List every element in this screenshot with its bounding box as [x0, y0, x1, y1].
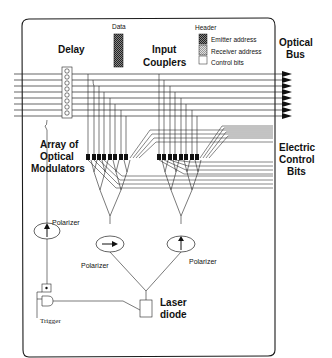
gate-link	[37, 292, 140, 318]
data-block	[114, 34, 123, 67]
legend-swatch-control	[199, 56, 207, 64]
photodetector-dot-icon	[45, 287, 47, 289]
input-couplers-label-2: Couplers	[143, 57, 187, 68]
legend-swatch-receiver	[199, 45, 207, 55]
combiner-tree-left	[91, 160, 130, 224]
polarizer-mid-label: Polarizer	[81, 262, 109, 269]
array-label-1: Array of	[40, 139, 79, 150]
input-couplers-group-1	[88, 74, 126, 157]
optical-modulator-array-2	[157, 154, 199, 160]
polarizer-mid	[96, 236, 124, 252]
laser-diode	[140, 300, 152, 317]
header-label: Header	[195, 24, 217, 31]
legend-receiver-address: Receiver address	[211, 48, 262, 55]
combiner-tree-right	[162, 160, 201, 224]
optical-modulator-array-1	[86, 154, 128, 160]
optical-bus-lines	[14, 74, 282, 116]
laser-label-2: diode	[160, 309, 187, 320]
polarizer-right-label: Polarizer	[189, 258, 217, 265]
input-couplers-group-2	[159, 74, 197, 157]
polarizer-right	[167, 236, 195, 252]
polarizer-left-label: Polarizer	[52, 219, 80, 226]
electric-label-1: Electric	[279, 142, 316, 153]
legend-control-bits: Control bits	[211, 59, 245, 66]
bus-arrow-icons	[282, 71, 292, 119]
input-couplers-label-1: Input	[152, 44, 177, 55]
optical-bus-label-1: Optical	[279, 37, 313, 48]
electric-label-3: Bits	[287, 166, 306, 177]
array-label-3: Modulators	[31, 163, 85, 174]
and-gate	[42, 296, 53, 306]
delay-label: Delay	[58, 44, 85, 55]
laser-label-1: Laser	[160, 297, 187, 308]
diagram-render: Delay Data Input Couplers Header Emitter…	[0, 0, 332, 358]
optical-bus-label-2: Bus	[286, 49, 305, 60]
legend-swatch-emitter	[199, 34, 207, 44]
array-label-2: Optical	[40, 151, 74, 162]
electric-label-2: Control	[279, 154, 315, 165]
legend-emitter-address: Emitter address	[211, 36, 257, 43]
laser-splitter	[110, 252, 181, 300]
data-label: Data	[112, 23, 126, 30]
trigger-label: Trigger	[40, 317, 61, 325]
